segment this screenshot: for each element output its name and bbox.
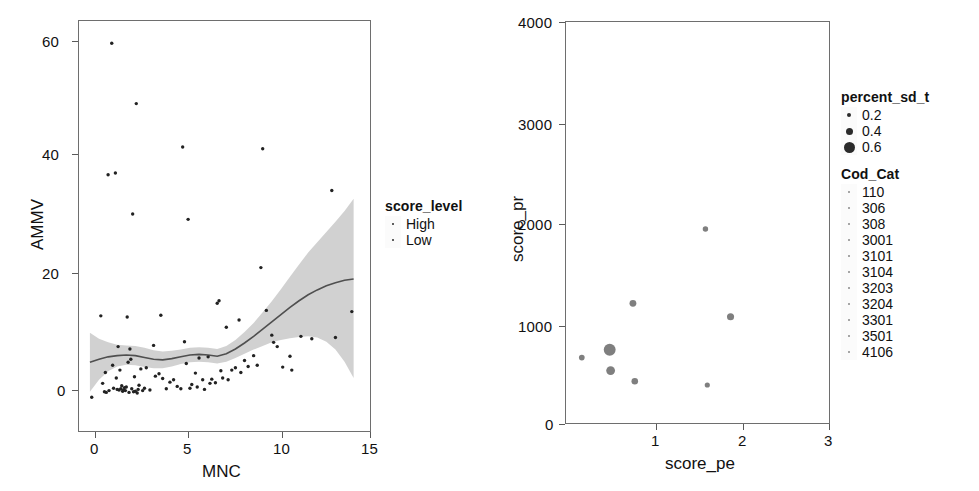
legend-item-cat-3001[interactable]: 3001 [841, 232, 899, 248]
data-point [272, 341, 275, 344]
point-icon [841, 123, 857, 139]
data-point [111, 364, 114, 367]
data-point [157, 372, 160, 375]
data-point [334, 336, 337, 339]
data-point [107, 389, 110, 392]
percent-sd-t-legend: percent_sd_t 0.20.40.6 [841, 89, 929, 155]
data-point [217, 299, 220, 302]
data-point [172, 378, 175, 381]
point-icon [841, 312, 857, 328]
data-point [118, 368, 121, 371]
legend-item-cat-308[interactable]: 308 [841, 216, 899, 232]
legend-item-cat-3104[interactable]: 3104 [841, 264, 899, 280]
legend-label-low: Low [406, 232, 432, 248]
legend-label-cat-3204: 3204 [862, 296, 893, 312]
data-point [101, 382, 104, 385]
legend-label-cat-3301: 3301 [862, 312, 893, 328]
data-point [237, 318, 240, 321]
data-point [210, 377, 213, 380]
data-point [181, 145, 184, 148]
data-point [290, 368, 293, 371]
data-point [727, 313, 734, 320]
legend-item-cat-110[interactable]: 110 [841, 184, 899, 200]
right-plot-canvas [490, 0, 979, 491]
data-point [226, 378, 229, 381]
data-point [145, 366, 148, 369]
data-point [186, 218, 189, 221]
data-point [168, 380, 171, 383]
data-point [203, 388, 206, 391]
point-icon [841, 248, 857, 264]
point-icon [841, 139, 857, 155]
data-point [221, 376, 224, 379]
data-point [606, 366, 615, 375]
legend-label-cat-308: 308 [862, 216, 885, 232]
data-point [116, 345, 119, 348]
data-point [234, 366, 237, 369]
data-point [135, 102, 138, 105]
legend-item-cat-3203[interactable]: 3203 [841, 280, 899, 296]
data-point [190, 383, 193, 386]
data-point [310, 337, 313, 340]
data-point [126, 361, 129, 364]
data-point [130, 387, 133, 390]
point-icon [841, 328, 857, 344]
legend-item-cat-3204[interactable]: 3204 [841, 296, 899, 312]
data-point [137, 383, 140, 386]
data-point [161, 377, 164, 380]
point-icon [841, 264, 857, 280]
percent-sd-t-legend-title: percent_sd_t [841, 89, 929, 105]
legend-item-cat-3501[interactable]: 3501 [841, 328, 899, 344]
data-point [148, 388, 151, 391]
cod-cat-legend-title: Cod_Cat [841, 166, 899, 182]
legend-label-cat-3104: 3104 [862, 264, 893, 280]
cod-cat-legend: Cod_Cat 11030630830013101310432033204330… [841, 166, 899, 360]
data-point [259, 266, 262, 269]
legend-label-cat-3001: 3001 [862, 232, 893, 248]
data-point [99, 314, 102, 317]
data-point [252, 354, 255, 357]
point-icon [841, 296, 857, 312]
legend-label-cat-3101: 3101 [862, 248, 893, 264]
legend-item-cat-306[interactable]: 306 [841, 200, 899, 216]
legend-item-size-0.4[interactable]: 0.4 [841, 123, 929, 139]
point-icon [841, 280, 857, 296]
legend-item-size-0.6[interactable]: 0.6 [841, 139, 929, 155]
data-point [115, 376, 118, 379]
data-point [104, 371, 107, 374]
data-point [196, 385, 199, 388]
point-icon [841, 344, 857, 360]
legend-item-high[interactable]: High [385, 216, 462, 232]
point-icon [841, 200, 857, 216]
data-point [705, 382, 710, 387]
legend-label-size-0.6: 0.6 [862, 139, 881, 155]
data-point [143, 386, 146, 389]
data-point [114, 171, 117, 174]
legend-item-cat-3301[interactable]: 3301 [841, 312, 899, 328]
legend-item-cat-3101[interactable]: 3101 [841, 248, 899, 264]
score-level-legend-title: score_level [385, 198, 462, 214]
legend-item-cat-4106[interactable]: 4106 [841, 344, 899, 360]
data-point [188, 386, 191, 389]
legend-item-low[interactable]: Low [385, 232, 462, 248]
data-point [265, 309, 268, 312]
data-point [281, 365, 284, 368]
data-point [127, 391, 130, 394]
data-point [350, 310, 353, 313]
data-point [214, 381, 217, 384]
legend-label-high: High [406, 216, 435, 232]
legend-label-size-0.2: 0.2 [862, 107, 881, 123]
data-point [179, 387, 182, 390]
data-point [276, 345, 279, 348]
data-point [261, 147, 264, 150]
right-scatter-panel: 4000 3000 2000 1000 0 1 2 3 score_pe sco… [490, 0, 979, 491]
point-icon [841, 184, 857, 200]
legend-label-cat-3203: 3203 [862, 280, 893, 296]
legend-item-size-0.2[interactable]: 0.2 [841, 107, 929, 123]
data-point [133, 375, 136, 378]
data-point [136, 391, 139, 394]
data-point [165, 387, 168, 390]
legend-label-cat-4106: 4106 [862, 344, 893, 360]
point-icon [841, 107, 857, 123]
data-point [90, 396, 93, 399]
